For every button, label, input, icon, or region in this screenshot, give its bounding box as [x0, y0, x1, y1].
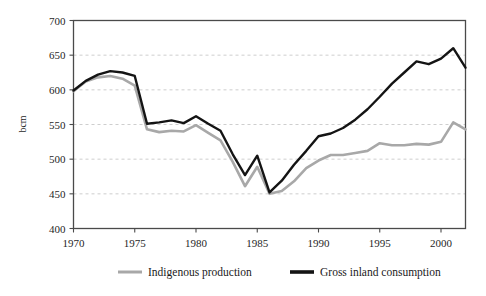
x-tick-label-1970: 1970: [63, 237, 86, 249]
y-tick-label-600: 600: [49, 84, 66, 96]
legend-label-indigenous-production: Indigenous production: [148, 266, 252, 279]
y-tick-label-650: 650: [49, 49, 66, 61]
x-tick-label-1990: 1990: [308, 237, 331, 249]
y-tick-label-700: 700: [49, 15, 66, 27]
y-tick-label-450: 450: [49, 188, 66, 200]
y-axis-title: bcm: [17, 115, 28, 132]
x-tick-label-1985: 1985: [246, 237, 269, 249]
x-tick-label-1980: 1980: [185, 237, 208, 249]
y-tick-label-400: 400: [49, 223, 66, 235]
y-tick-label-550: 550: [49, 119, 66, 131]
legend-label-gross-inland-consumption: Gross inland consumption: [320, 266, 441, 279]
chart-figure: 400450500550600650700 197019751980198519…: [0, 0, 486, 296]
x-tick-label-1975: 1975: [124, 237, 147, 249]
x-tick-label-1995: 1995: [369, 237, 392, 249]
y-tick-label-500: 500: [49, 153, 66, 165]
line-chart: 400450500550600650700 197019751980198519…: [0, 0, 486, 296]
x-tick-label-2000: 2000: [430, 237, 453, 249]
